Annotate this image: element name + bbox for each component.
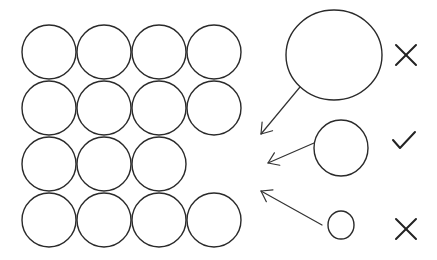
cross-icon bbox=[396, 45, 416, 65]
candidate-large bbox=[261, 10, 416, 134]
small-circle bbox=[328, 211, 354, 239]
grid-circle bbox=[132, 193, 186, 247]
circle-grid bbox=[22, 25, 241, 247]
large-circle bbox=[286, 10, 382, 100]
cross-icon bbox=[396, 219, 416, 239]
grid-circle bbox=[132, 137, 186, 191]
check-icon bbox=[393, 132, 415, 148]
grid-circle bbox=[77, 81, 131, 135]
grid-circle bbox=[22, 81, 76, 135]
grid-circle bbox=[77, 137, 131, 191]
grid-circle bbox=[187, 81, 241, 135]
arrow-icon bbox=[261, 87, 300, 134]
arrow-icon bbox=[261, 190, 322, 225]
candidate-circles bbox=[261, 10, 416, 239]
grid-circle bbox=[132, 25, 186, 79]
grid-circle bbox=[22, 25, 76, 79]
grid-circle bbox=[22, 193, 76, 247]
circle-packing-diagram bbox=[0, 0, 437, 260]
candidate-medium bbox=[268, 120, 415, 176]
grid-circle bbox=[187, 193, 241, 247]
grid-circle bbox=[132, 81, 186, 135]
arrow-icon bbox=[268, 143, 314, 165]
grid-circle bbox=[22, 137, 76, 191]
medium-circle bbox=[314, 120, 368, 176]
grid-circle bbox=[77, 193, 131, 247]
candidate-small bbox=[261, 190, 416, 239]
grid-circle bbox=[77, 25, 131, 79]
grid-circle bbox=[187, 25, 241, 79]
